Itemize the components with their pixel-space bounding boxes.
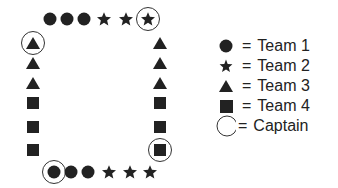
square-icon: [152, 95, 168, 111]
legend-label: Team 4: [257, 97, 309, 115]
square-icon: [25, 142, 41, 158]
legend-label: Team 1: [257, 37, 309, 55]
star-icon: [122, 164, 138, 180]
circle-icon: [80, 164, 96, 180]
captain-ring-icon: [21, 31, 45, 55]
circle-icon: [76, 11, 92, 27]
legend-label: Team 3: [257, 77, 309, 95]
circle-icon: [42, 11, 58, 27]
circle-icon: [63, 164, 79, 180]
square-icon: [152, 119, 168, 135]
triangle-icon: [152, 75, 168, 91]
legend-item-team1: = Team 1: [216, 36, 310, 56]
legend-item-team3: = Team 3: [216, 76, 310, 96]
legend-item-team2: = Team 2: [216, 56, 310, 76]
ring-icon: [216, 118, 236, 134]
legend-label: Team 2: [257, 57, 309, 75]
triangle-icon: [25, 55, 41, 71]
star-icon: [96, 11, 112, 27]
captain-ring-icon: [148, 138, 172, 162]
star-icon: [118, 11, 134, 27]
triangle-icon: [152, 55, 168, 71]
circle-icon: [216, 38, 236, 54]
square-icon: [25, 95, 41, 111]
legend-item-captain: = Captain: [216, 116, 310, 136]
square-icon: [216, 98, 236, 114]
legend: = Team 1 = Team 2 = Team 3 = Team 4 = Ca…: [216, 36, 310, 136]
star-icon: [142, 164, 158, 180]
star-icon: [101, 164, 117, 180]
legend-item-team4: = Team 4: [216, 96, 310, 116]
star-icon: [216, 58, 236, 74]
triangle-icon: [152, 35, 168, 51]
triangle-icon: [25, 75, 41, 91]
triangle-icon: [216, 78, 236, 94]
circle-icon: [59, 11, 75, 27]
square-icon: [25, 119, 41, 135]
captain-ring-icon: [136, 7, 160, 31]
legend-label: Captain: [253, 117, 308, 135]
